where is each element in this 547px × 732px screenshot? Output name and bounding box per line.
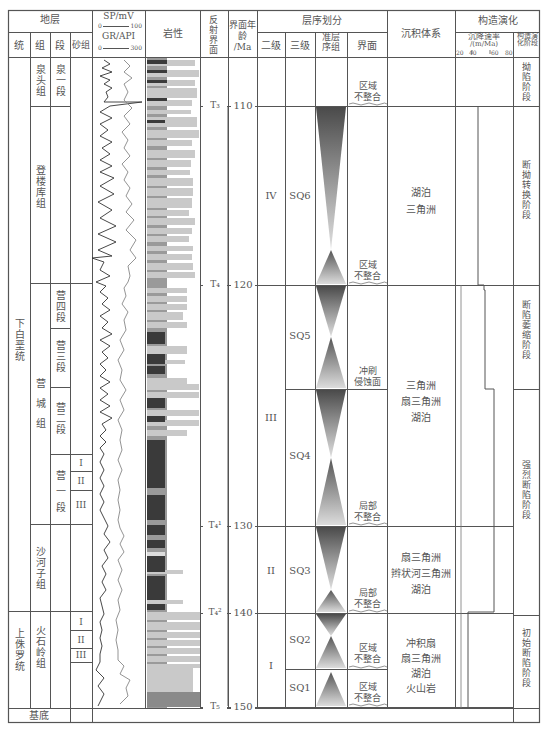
second-order-I: I <box>257 660 285 673</box>
header-depositional-system: 沉积体系 <box>387 28 455 41</box>
formation-yingcheng: 营城组 <box>33 378 46 438</box>
second-order-IV: IV <box>257 190 285 203</box>
formation-shahezi: 沙河子组 <box>33 546 46 590</box>
header-stratigraphy: 地层 <box>8 14 92 27</box>
boundary-label-1: 区域 不整合 <box>348 81 387 104</box>
tectonic-stage-depression: 拗陷阶段 <box>520 62 531 102</box>
gr-scale-line <box>103 48 129 49</box>
reflection-T4-1: T₄¹ <box>203 520 227 531</box>
boundary-label-6: 区域 不整合 <box>348 643 387 666</box>
header-formation: 组 <box>30 40 50 53</box>
third-order-SQ6: SQ6 <box>285 190 315 203</box>
header-tectonic-stage: 构造演化阶段 <box>515 33 539 48</box>
boundary-label-4: 局部 不整合 <box>348 501 387 524</box>
member-ying3: 营三段 <box>53 340 66 373</box>
header-sequence: 层序划分 <box>257 15 387 28</box>
system-lower-cretaceous: 下白垩统 <box>12 318 25 362</box>
age-140: 140 <box>231 607 255 620</box>
gr-curve <box>116 60 136 704</box>
tectonic-stage-intense-rifting: 强烈断陷阶段 <box>520 460 531 520</box>
header-sand-group: 砂组 <box>70 40 92 51</box>
sand-group-huoshiling-II: II <box>70 635 92 646</box>
sand-group-ying1-III: III <box>70 500 92 511</box>
formation-huoshiling: 火石岭组 <box>33 625 46 669</box>
header-system: 统 <box>8 40 30 53</box>
header-sp-label: SP/mV <box>92 11 145 22</box>
header-second-order: 二级 <box>257 40 285 53</box>
sand-group-ying1-I: I <box>70 458 92 469</box>
boundary-label-7: 区域 不整合 <box>348 682 387 705</box>
age-110: 110 <box>231 100 255 113</box>
sand-group-huoshiling-III: III <box>70 650 92 661</box>
header-third-order: 三级 <box>285 40 315 53</box>
third-order-SQ1: SQ1 <box>285 682 315 695</box>
header-boundary: 界面 <box>347 40 387 53</box>
header-tectonic: 构造演化 <box>455 15 540 28</box>
boundary-label-3: 冲刷 侵蚀面 <box>348 366 387 389</box>
boundary-label-5: 局部 不整合 <box>348 588 387 611</box>
age-120: 120 <box>231 279 255 292</box>
member-quan1: 泉一段 <box>53 64 66 97</box>
tectonic-stage-rift-shrinking: 断陷萎缩阶段 <box>520 300 531 360</box>
member-ying1: 营一段 <box>53 470 66 518</box>
header-lithology: 岩性 <box>145 28 200 41</box>
formation-denglouku: 登楼库组 <box>33 165 46 209</box>
subsidence-axis-ticks: 20 40 60 80 <box>456 49 513 57</box>
header-age: 界面年龄 <box>228 20 257 43</box>
sp-curve <box>92 60 142 706</box>
header-subsidence-unit: /(m/Ma) <box>455 41 513 48</box>
depositional-system-2: 三角洲 扇三角洲 湖泊 <box>387 378 455 426</box>
system-upper-jurassic: 上侏罗统 <box>12 628 25 672</box>
third-order-SQ4: SQ4 <box>285 450 315 463</box>
sand-group-huoshiling-I: I <box>70 617 92 628</box>
reflection-T5: T₅ <box>203 701 227 712</box>
header-age-unit: /Ma <box>228 42 257 53</box>
header-gr-scale: 0 300 <box>98 44 142 54</box>
third-order-SQ3: SQ3 <box>285 565 315 578</box>
third-order-SQ5: SQ5 <box>285 330 315 343</box>
boundary-label-2: 区域 不整合 <box>348 260 387 283</box>
reflection-T4: T₄ <box>203 279 227 290</box>
reflection-T3: T₃ <box>203 100 227 111</box>
sand-group-ying1-II: II <box>70 476 92 487</box>
tectonic-stage-fault-depression-transition: 断拗转换阶段 <box>520 160 531 220</box>
sp-scale-line <box>103 26 129 27</box>
basement-label: 基底 <box>8 710 70 723</box>
member-ying4: 营四段 <box>53 290 66 323</box>
header-parasequence-set: 准层序组 <box>319 33 343 53</box>
second-order-II: II <box>257 565 285 578</box>
depositional-system-1: 湖泊 三角洲 <box>387 184 455 218</box>
age-130: 130 <box>231 520 255 533</box>
third-order-SQ2: SQ2 <box>285 634 315 647</box>
reflection-T4-2: T₄² <box>203 607 227 618</box>
depositional-system-3: 扇三角洲 辫状河三角洲 湖泊 <box>387 550 455 598</box>
header-member: 段 <box>50 40 70 53</box>
parasequence-triangles <box>316 107 346 706</box>
member-ying2: 营二段 <box>53 402 66 435</box>
formation-quantou: 泉头组 <box>33 64 46 97</box>
header-reflection: 反射界面 <box>207 13 218 57</box>
second-order-III: III <box>257 412 285 425</box>
subsidence-rate-curve <box>468 106 494 708</box>
lithology-column <box>147 58 200 708</box>
depositional-system-4: 冲积扇 扇三角洲 湖泊 火山岩 <box>387 636 455 696</box>
age-150: 150 <box>231 701 255 714</box>
tectonic-stage-initial-rifting: 初始断陷阶段 <box>520 628 531 688</box>
header-gr-label: GR/API <box>92 31 145 42</box>
